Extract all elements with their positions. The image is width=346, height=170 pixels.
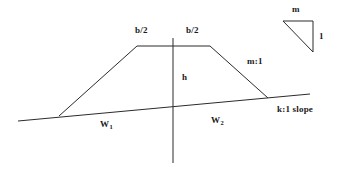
width-left-symbol: W	[100, 119, 109, 129]
triangle-vertical-label: 1	[319, 32, 324, 41]
ground-slope-line	[18, 94, 310, 121]
embankment-diagram: b/2 b/2 h m:1 k:1 slope W1 W2 m 1	[0, 0, 346, 170]
diagram-canvas	[0, 0, 346, 170]
crest-left-label: b/2	[135, 26, 148, 35]
width-left-label: W1	[100, 120, 113, 129]
crest-right-label: b/2	[186, 26, 199, 35]
width-right-subscript: 2	[221, 119, 224, 126]
ground-slope-label: k:1 slope	[277, 105, 313, 114]
embankment-outline	[59, 46, 268, 116]
width-left-subscript: 1	[110, 123, 113, 130]
width-right-label: W2	[211, 116, 224, 125]
width-right-symbol: W	[211, 115, 220, 125]
side-slope-label: m:1	[247, 57, 263, 66]
height-label: h	[182, 73, 187, 82]
triangle-horizontal-label: m	[292, 5, 300, 14]
slope-ratio-triangle	[283, 21, 313, 52]
